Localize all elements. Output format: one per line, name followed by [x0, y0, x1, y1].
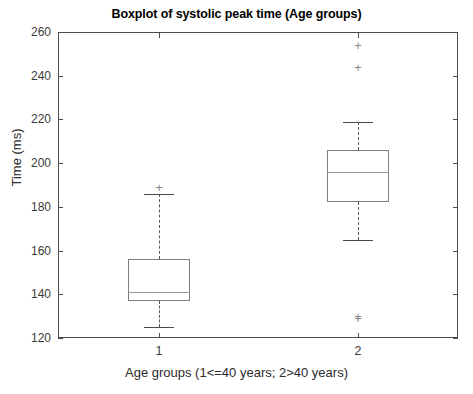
outlier-marker: +	[354, 39, 362, 52]
whisker-upper	[358, 122, 359, 150]
whisker-lower	[358, 202, 359, 239]
median-line	[327, 172, 389, 173]
box-iqr	[327, 150, 389, 202]
x-axis-label: Age groups (1<=40 years; 2>40 years)	[0, 365, 473, 380]
whisker-cap-lower	[343, 240, 373, 241]
boxplot-group: ++++	[0, 0, 473, 394]
outlier-marker: +	[354, 60, 362, 73]
outlier-marker: +	[354, 312, 362, 325]
whisker-cap-upper	[343, 122, 373, 123]
boxplot-figure: Boxplot of systolic peak time (Age group…	[0, 0, 473, 394]
